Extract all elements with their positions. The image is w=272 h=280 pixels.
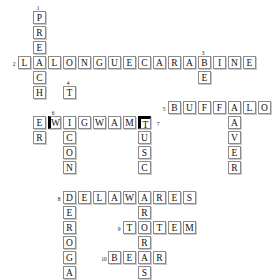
crossword-cell[interactable]: A — [183, 56, 196, 69]
crossword-cell[interactable]: B — [198, 56, 211, 69]
crossword-cell[interactable]: W — [123, 191, 136, 204]
crossword-cell[interactable]: E — [168, 221, 181, 234]
crossword-cell[interactable]: A — [138, 191, 151, 204]
crossword-cell[interactable]: M — [123, 116, 136, 129]
clue-number: 7 — [154, 121, 162, 127]
crossword-cell[interactable]: M — [183, 221, 196, 234]
crossword-cell[interactable]: E — [78, 191, 91, 204]
crossword-cell[interactable]: E — [33, 41, 46, 54]
crossword-cell[interactable]: R — [63, 221, 76, 234]
crossword-cell[interactable]: U — [183, 101, 196, 114]
crossword-cell[interactable]: C — [138, 161, 151, 174]
crossword-cell[interactable]: O — [63, 56, 76, 69]
crossword-cell[interactable]: R — [138, 236, 151, 249]
crossword-cell[interactable]: H — [33, 86, 46, 99]
crossword-cell[interactable]: E — [123, 56, 136, 69]
clue-number: 4 — [64, 80, 72, 86]
crossword-cell[interactable]: L — [48, 56, 61, 69]
crossword-cell[interactable]: E — [123, 251, 136, 264]
clue-number: 10 — [100, 256, 108, 262]
crossword-cell[interactable]: S — [183, 191, 196, 204]
crossword-cell[interactable]: E — [243, 56, 256, 69]
crossword-cell[interactable]: W — [48, 116, 61, 129]
clue-number: 8 — [55, 196, 63, 202]
crossword-cell[interactable]: R — [33, 131, 46, 144]
clue-number: 5 — [160, 106, 168, 112]
clue-number: 3 — [199, 50, 207, 56]
crossword-cell[interactable]: E — [228, 146, 241, 159]
crossword-cell[interactable]: O — [258, 101, 271, 114]
crossword-cell[interactable]: E — [198, 71, 211, 84]
crossword-cell[interactable]: T — [123, 221, 136, 234]
crossword-cell[interactable]: I — [213, 56, 226, 69]
crossword-cell[interactable]: G — [93, 56, 106, 69]
crossword-cell[interactable]: C — [63, 131, 76, 144]
crossword-cell[interactable]: N — [228, 56, 241, 69]
crossword-cell[interactable]: A — [108, 191, 121, 204]
crossword-cell[interactable]: R — [228, 161, 241, 174]
crossword-cell[interactable]: C — [138, 56, 151, 69]
crossword-cell[interactable]: W — [93, 116, 106, 129]
crossword-cell[interactable]: O — [63, 146, 76, 159]
crossword-cell[interactable]: N — [63, 161, 76, 174]
crossword-cell[interactable]: L — [93, 191, 106, 204]
crossword-cell[interactable]: L — [18, 56, 31, 69]
crossword-cell[interactable]: G — [78, 116, 91, 129]
crossword-cell[interactable]: G — [63, 251, 76, 264]
crossword-cell[interactable]: L — [243, 101, 256, 114]
crossword-cell[interactable]: D — [63, 191, 76, 204]
crossword-cell[interactable]: F — [213, 101, 226, 114]
crossword-cell[interactable]: A — [228, 116, 241, 129]
clue-number: 1 — [34, 5, 42, 11]
crossword-cell[interactable]: R — [153, 191, 166, 204]
crossword-cell[interactable]: R — [138, 206, 151, 219]
crossword-cell[interactable]: N — [78, 56, 91, 69]
crossword-cell[interactable]: E — [63, 206, 76, 219]
crossword-cell[interactable]: R — [153, 251, 166, 264]
crossword-cell[interactable]: A — [33, 56, 46, 69]
crossword-cell[interactable]: T — [138, 116, 151, 129]
crossword-cell[interactable]: T — [153, 221, 166, 234]
crossword-cell[interactable]: U — [138, 131, 151, 144]
crossword-cell[interactable]: A — [63, 266, 76, 279]
crossword-cell[interactable]: A — [228, 101, 241, 114]
crossword-cell[interactable]: C — [33, 71, 46, 84]
clue-number: 2 — [10, 61, 18, 67]
crossword-cell[interactable]: E — [33, 116, 46, 129]
clue-number: 6 — [49, 110, 57, 116]
crossword-cell[interactable]: B — [168, 101, 181, 114]
crossword-cell[interactable]: S — [138, 146, 151, 159]
crossword-cell[interactable]: B — [108, 251, 121, 264]
crossword-cell[interactable]: V — [228, 131, 241, 144]
crossword-cell[interactable]: U — [108, 56, 121, 69]
crossword-cell[interactable]: F — [198, 101, 211, 114]
crossword-cell[interactable]: E — [168, 191, 181, 204]
crossword-cell[interactable]: O — [138, 221, 151, 234]
crossword-cell[interactable]: A — [108, 116, 121, 129]
crossword-cell[interactable]: S — [138, 266, 151, 279]
clue-number: 9 — [115, 226, 123, 232]
crossword-cell[interactable]: T — [63, 86, 76, 99]
crossword-cell[interactable]: R — [33, 26, 46, 39]
crossword-cell[interactable]: O — [63, 236, 76, 249]
crossword-cell[interactable]: R — [168, 56, 181, 69]
crossword-cell[interactable]: P — [33, 11, 46, 24]
crossword-cell[interactable]: A — [138, 251, 151, 264]
crossword-cell[interactable]: I — [63, 116, 76, 129]
crossword-cell[interactable]: A — [153, 56, 166, 69]
